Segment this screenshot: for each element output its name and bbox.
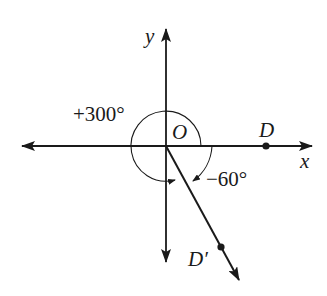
point-d-prime-label: D′	[187, 247, 208, 271]
point-d	[262, 142, 269, 149]
x-axis-label: x	[299, 149, 310, 173]
coordinate-diagram: y x O D D′ +300° −60°	[0, 0, 327, 296]
y-axis-label: y	[143, 24, 155, 48]
angle-minus-60-label: −60°	[206, 167, 247, 191]
point-d-label: D	[258, 118, 274, 142]
point-d-prime	[217, 243, 224, 250]
angle-plus-300-label: +300°	[73, 102, 125, 126]
origin-label: O	[172, 120, 187, 144]
